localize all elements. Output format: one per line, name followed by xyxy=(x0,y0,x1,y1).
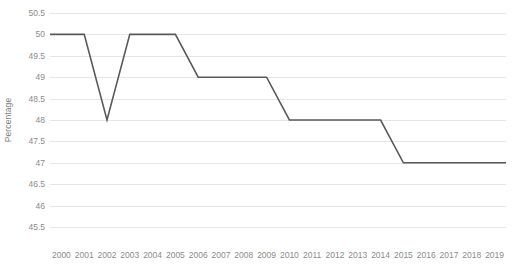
x-axis-tick-label: 2019 xyxy=(485,250,504,260)
y-axis-tick-label: 45.5 xyxy=(28,222,45,232)
series-line-percentage xyxy=(50,13,506,227)
y-axis-tick-label: 47.5 xyxy=(28,136,45,146)
x-axis-tick-label: 2012 xyxy=(326,250,345,260)
y-axis-tick-label: 50.5 xyxy=(28,8,45,18)
x-axis-tick-label: 2009 xyxy=(257,250,276,260)
x-axis-tick-label: 2006 xyxy=(189,250,208,260)
y-axis-tick-label: 49 xyxy=(36,72,45,82)
y-axis-tick-label: 48 xyxy=(36,115,45,125)
x-axis-tick-label: 2004 xyxy=(143,250,162,260)
x-axis-tick-label: 2010 xyxy=(280,250,299,260)
x-axis-tick-label: 2008 xyxy=(234,250,253,260)
y-axis-tick-label: 46 xyxy=(36,201,45,211)
x-axis-tick-label: 2001 xyxy=(75,250,94,260)
x-axis-tick-label: 2002 xyxy=(98,250,117,260)
x-axis-tick-label: 2013 xyxy=(348,250,367,260)
x-axis-tick-label: 2005 xyxy=(166,250,185,260)
y-axis-tick-label: 47 xyxy=(36,158,45,168)
x-axis-tick-labels: 2000200120022003200420052006200720082009… xyxy=(50,250,506,266)
y-axis-tick-label: 48.5 xyxy=(28,94,45,104)
x-axis-tick-label: 2016 xyxy=(417,250,436,260)
line-chart: Percentage 45.54646.54747.54848.54949.55… xyxy=(0,0,516,270)
y-axis-tick-label: 46.5 xyxy=(28,179,45,189)
y-axis-title: Percentage xyxy=(0,0,16,240)
x-axis-tick-label: 2018 xyxy=(462,250,481,260)
y-axis-title-label: Percentage xyxy=(3,98,13,142)
y-axis-tick-label: 50 xyxy=(36,29,45,39)
gridline xyxy=(50,227,506,228)
x-axis-tick-label: 2007 xyxy=(212,250,231,260)
x-axis-tick-label: 2017 xyxy=(440,250,459,260)
y-axis-tick-label: 49.5 xyxy=(28,51,45,61)
x-axis-tick-label: 2000 xyxy=(52,250,71,260)
x-axis-tick-label: 2003 xyxy=(120,250,139,260)
series-polyline xyxy=(50,34,506,162)
x-axis-tick-label: 2011 xyxy=(303,250,321,260)
plot-area xyxy=(50,13,506,227)
x-axis-tick-label: 2014 xyxy=(371,250,390,260)
x-axis-tick-label: 2015 xyxy=(394,250,413,260)
y-axis-tick-labels: 45.54646.54747.54848.54949.55050.5 xyxy=(16,0,48,270)
